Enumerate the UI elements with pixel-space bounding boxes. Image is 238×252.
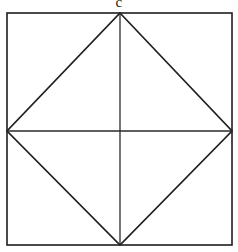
geometric-figure: c (0, 0, 238, 252)
diagram-canvas (0, 0, 238, 252)
